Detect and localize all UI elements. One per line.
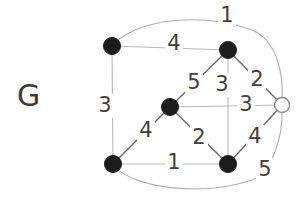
weight-label-curve-bottomleft-right: 5 [258, 157, 271, 181]
graph-canvas: 4 3 3 1 5 4 2 3 2 4 1 5 [0, 0, 302, 203]
weight-label-center-bottomright: 2 [192, 125, 205, 149]
node-bottom-left[interactable] [105, 156, 122, 173]
weight-label-topright-right: 2 [250, 67, 263, 91]
node-center[interactable] [162, 99, 179, 116]
weight-label-center-bottomleft: 4 [139, 118, 152, 142]
node-top-left[interactable] [104, 38, 121, 55]
weight-label-center-topright: 5 [187, 70, 200, 94]
weight-label-center-right: 3 [239, 92, 252, 116]
edge-center-right [170, 105, 282, 107]
weight-label-curve-topleft-right: 1 [220, 3, 233, 27]
graph-figure: G 4 3 3 [0, 0, 302, 203]
weight-label-topright-bottomright: 3 [215, 72, 228, 96]
weight-label-bottomleft-bottomright: 1 [167, 150, 180, 174]
node-top-right[interactable] [220, 42, 237, 59]
node-right-open[interactable] [275, 98, 290, 113]
graph-name-label: G [17, 81, 41, 111]
node-bottom-right[interactable] [220, 156, 237, 173]
weight-label-topleft-bottomleft: 3 [98, 93, 111, 117]
weight-label-topleft-topright: 4 [167, 31, 180, 55]
weight-label-bottomright-right: 4 [248, 124, 261, 148]
